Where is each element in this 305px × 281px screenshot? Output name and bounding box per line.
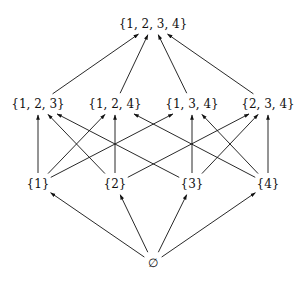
edge-arrow-4-to-124 bbox=[134, 114, 255, 177]
edge-arrow-2-to-234 bbox=[128, 114, 249, 177]
edge-arrow-1-to-134 bbox=[51, 114, 173, 177]
node-4: {4} bbox=[257, 177, 280, 191]
node-134: {1, 3, 4} bbox=[165, 97, 218, 111]
edge-arrow-134-to-top bbox=[158, 35, 186, 93]
edge-arrow-234-to-top bbox=[168, 34, 254, 94]
node-empty: ∅ bbox=[148, 256, 158, 270]
node-1: {1} bbox=[27, 177, 50, 191]
edge-arrow-123-to-top bbox=[53, 34, 139, 94]
edge-arrow-empty-to-4 bbox=[162, 193, 256, 257]
edge-arrow-empty-to-3 bbox=[158, 195, 186, 252]
node-234: {2, 3, 4} bbox=[241, 97, 294, 111]
node-124: {1, 2, 4} bbox=[88, 97, 141, 111]
node-top: {1, 2, 3, 4} bbox=[119, 17, 188, 31]
node-2: {2} bbox=[104, 177, 127, 191]
edge-arrow-empty-to-1 bbox=[51, 193, 145, 257]
edges-layer bbox=[0, 0, 305, 281]
node-123: {1, 2, 3} bbox=[11, 97, 64, 111]
node-3: {3} bbox=[181, 177, 204, 191]
